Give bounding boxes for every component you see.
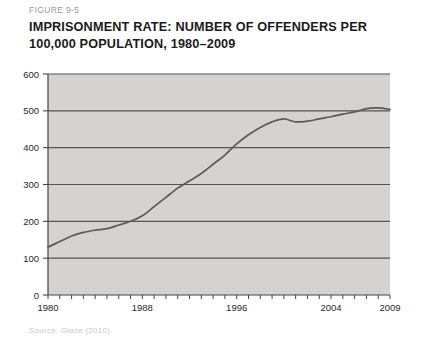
x-axis-tick-group (48, 295, 390, 299)
x-tick-label-1980: 1980 (37, 302, 58, 313)
x-tick-label-1996: 1996 (226, 302, 247, 313)
y-tick-label-0: 0 (34, 290, 39, 301)
x-tick-label-1988: 1988 (132, 302, 153, 313)
y-tick-label-400: 400 (23, 142, 39, 153)
y-tick-label-500: 500 (23, 105, 39, 116)
y-tick-label-200: 200 (23, 216, 39, 227)
figure-container: FIGURE 9-5 IMPRISONMENT RATE: NUMBER OF … (0, 0, 424, 348)
figure-title-line-2: 100,000 POPULATION, 1980–2009 (29, 36, 409, 53)
x-tick-label-2004: 2004 (320, 302, 341, 313)
y-axis-label-group: 0100200300400500600 (23, 69, 39, 301)
x-tick-label-2009: 2009 (379, 302, 400, 313)
source-note: Source: Glaze (2010). (29, 326, 113, 335)
x-axis-label-group: 19801988199620042009 (37, 302, 400, 313)
figure-title-line-1: IMPRISONMENT RATE: NUMBER OF OFFENDERS P… (29, 19, 409, 36)
chart-area: 0100200300400500600 19801988199620042009 (0, 60, 424, 315)
line-chart: 0100200300400500600 19801988199620042009 (0, 60, 424, 315)
y-tick-label-600: 600 (23, 69, 39, 80)
figure-title: IMPRISONMENT RATE: NUMBER OF OFFENDERS P… (29, 19, 409, 52)
y-tick-label-100: 100 (23, 253, 39, 264)
y-tick-label-300: 300 (23, 179, 39, 190)
y-axis-tick-group (43, 74, 48, 295)
figure-number-label: FIGURE 9-5 (29, 5, 79, 15)
